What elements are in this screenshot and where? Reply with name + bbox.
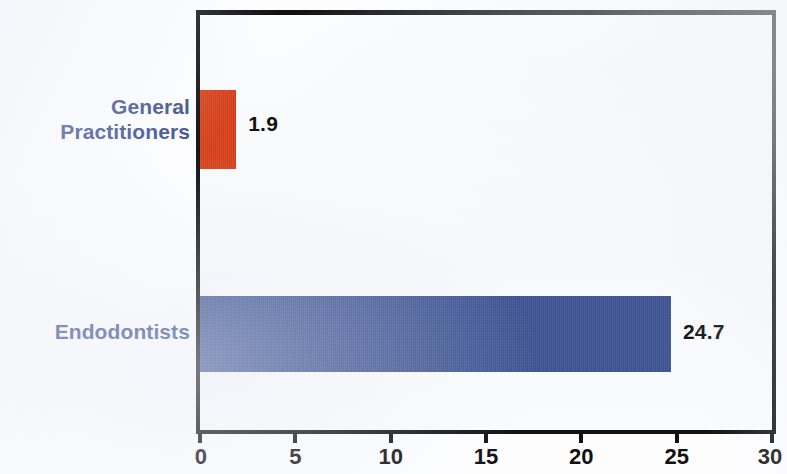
value-label-endodontists: 24.7	[683, 320, 725, 344]
category-label-general-practitioners: General Practitioners	[60, 94, 190, 144]
x-tick-5	[293, 430, 297, 443]
category-label-endodontists: Endodontists	[55, 319, 190, 344]
x-tick-15	[484, 430, 488, 443]
x-tick-label-30: 30	[758, 444, 782, 470]
bar-fill	[200, 90, 236, 169]
x-tick-20	[579, 430, 583, 443]
x-tick-0	[198, 430, 202, 443]
bar-fill	[200, 296, 671, 372]
x-tick-label-25: 25	[664, 444, 688, 470]
x-tick-25	[675, 430, 679, 443]
x-tick-label-5: 5	[289, 444, 301, 470]
x-tick-label-15: 15	[474, 444, 498, 470]
x-tick-label-0: 0	[195, 444, 207, 470]
bar-general-practitioners	[200, 90, 236, 169]
x-tick-10	[389, 430, 393, 443]
x-tick-label-10: 10	[378, 444, 402, 470]
bar-chart-figure: General Practitioners Endodontists 1.9 2…	[0, 0, 787, 474]
x-tick-label-20: 20	[569, 444, 593, 470]
value-label-general-practitioners: 1.9	[248, 112, 278, 136]
x-tick-30	[770, 430, 774, 443]
bar-endodontists	[200, 296, 671, 372]
